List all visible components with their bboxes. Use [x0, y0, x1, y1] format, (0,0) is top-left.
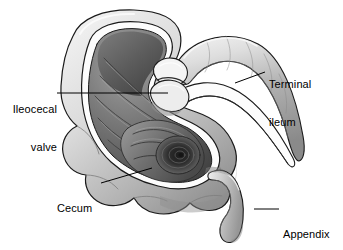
label-ileocecal-valve-line2: valve: [0, 141, 57, 154]
ileocecal-region-figure: Ileocecal valve Terminal ileum Cecum App…: [0, 0, 343, 250]
ileocecal-valve-lips: [151, 58, 189, 116]
label-cecum-line1: Cecum: [57, 202, 92, 215]
label-appendix-line1: Appendix: [283, 228, 330, 241]
label-terminal-ileum-line1: Terminal: [269, 78, 311, 91]
label-terminal-ileum: Terminal ileum: [269, 53, 311, 141]
label-ileocecal-valve-line1: Ileocecal: [0, 103, 57, 116]
label-appendix: Appendix: [283, 203, 330, 250]
label-ileocecal-valve: Ileocecal valve: [0, 78, 57, 166]
label-terminal-ileum-line2: ileum: [269, 116, 311, 129]
label-cecum: Cecum: [57, 177, 92, 227]
